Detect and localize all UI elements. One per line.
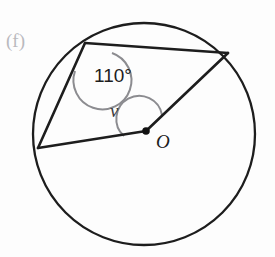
centre-point-dot bbox=[142, 127, 150, 135]
central-angle-arc-marker bbox=[116, 96, 162, 136]
chord-topleft-to-right bbox=[85, 43, 228, 53]
geometry-figure: (f) 110° v O bbox=[0, 0, 275, 257]
circle-theorem-diagram: (f) 110° v O bbox=[0, 0, 275, 257]
part-label: (f) bbox=[6, 30, 25, 52]
centre-label: O bbox=[156, 131, 170, 152]
radius-left-to-centre bbox=[38, 131, 146, 148]
central-angle-label: v bbox=[110, 100, 119, 121]
inscribed-angle-label: 110° bbox=[94, 65, 132, 86]
radius-centre-to-right bbox=[146, 53, 228, 131]
